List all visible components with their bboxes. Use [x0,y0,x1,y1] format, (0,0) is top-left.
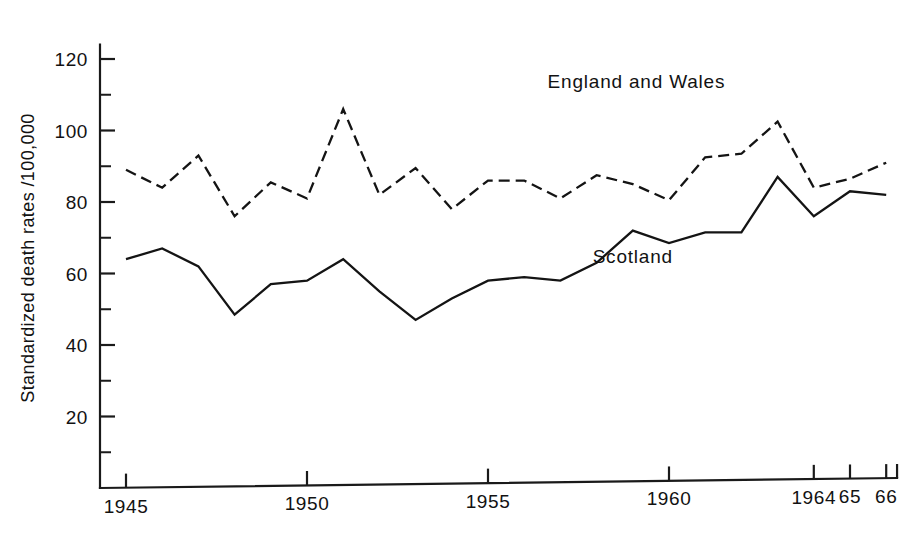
x-tick-label-65: 65 [839,486,861,507]
y-axis-title-group: Standardized death rates /100,000 [18,113,38,402]
series-label-scotland: Scotland [593,246,673,267]
x-tick-label-1955: 1955 [466,491,511,512]
series-label-england-and-wales: England and Wales [548,71,726,92]
y-tick-label-40: 40 [66,335,88,356]
series-line-scotland [126,177,886,320]
x-tick-label-1950: 1950 [285,493,330,514]
axis-group [100,45,897,488]
line-chart-plot: 20406080100120 194519501955196019646566 … [0,0,922,533]
x-tick-label-1960: 1960 [647,488,692,509]
y-tick-label-60: 60 [66,264,88,285]
y-tick-label-group: 20406080100120 [54,49,88,428]
x-tick-label-1945: 1945 [104,496,149,517]
x-axis-line [100,478,897,488]
series-annotation-group: England and WalesScotland [548,71,726,267]
y-tick-label-80: 80 [66,192,88,213]
x-tick-label-group: 194519501955196019646566 [104,486,898,517]
y-tick-label-120: 120 [54,49,88,70]
x-tick-label-1964: 1964 [791,487,836,508]
y-axis-title: Standardized death rates /100,000 [18,113,38,402]
x-tick-label-66: 66 [875,486,897,507]
y-tick-label-20: 20 [66,407,88,428]
series-line-england-and-wales [126,109,886,216]
chart-figure: 20406080100120 194519501955196019646566 … [0,0,922,533]
data-series-group [126,109,886,320]
y-tick-label-100: 100 [54,121,88,142]
